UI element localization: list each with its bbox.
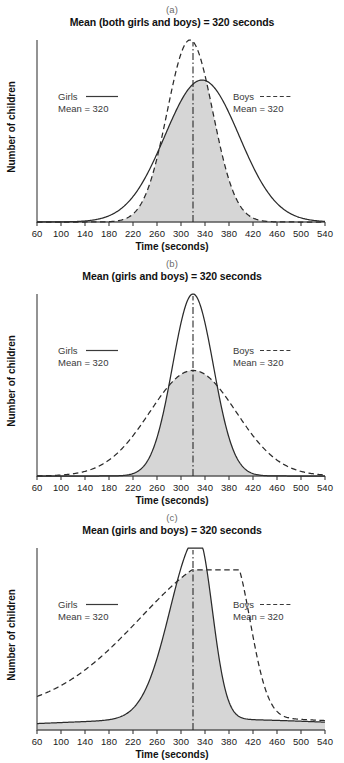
overlap-shaded-region [37, 370, 325, 476]
x-axis-tick-label: 340 [197, 736, 213, 747]
x-axis-tick-label: 60 [32, 736, 43, 747]
legend-boys-label: Boys [233, 345, 254, 356]
legend-girls-label: Girls [58, 345, 78, 356]
panel-b-plot: 60100140180220260300340380420460500540Gi… [0, 254, 344, 508]
x-axis-tick-label: 100 [53, 736, 69, 747]
x-axis-tick-label: 100 [53, 482, 69, 493]
x-axis-tick-label: 300 [173, 228, 189, 239]
x-axis-tick-label: 180 [101, 736, 117, 747]
panel-c-x-axis-label: Time (seconds) [0, 749, 344, 760]
x-axis-tick-label: 420 [245, 736, 261, 747]
legend-girls-label: Girls [58, 91, 78, 102]
x-axis-tick-label: 60 [32, 228, 43, 239]
legend-boys-mean: Mean = 320 [233, 611, 283, 622]
x-axis-tick-label: 140 [77, 736, 93, 747]
x-axis-tick-label: 180 [101, 482, 117, 493]
x-axis-tick-label: 460 [269, 482, 285, 493]
legend-boys-mean: Mean = 320 [233, 357, 283, 368]
x-axis-tick-label: 460 [269, 736, 285, 747]
x-axis-tick-label: 220 [125, 228, 141, 239]
figure-sheet: (a) Mean (both girls and boys) = 320 sec… [0, 0, 344, 763]
panel-a-x-axis-label: Time (seconds) [0, 241, 344, 252]
legend-girls-label: Girls [58, 599, 78, 610]
x-axis-tick-label: 140 [77, 482, 93, 493]
x-axis-tick-label: 460 [269, 228, 285, 239]
x-axis-tick-label: 60 [32, 482, 43, 493]
x-axis-tick-label: 260 [149, 228, 165, 239]
panel-c-plot: 60100140180220260300340380420460500540Gi… [0, 508, 344, 762]
x-axis-tick-label: 340 [197, 228, 213, 239]
panel-b-x-axis-label: Time (seconds) [0, 495, 344, 506]
overlap-shaded-region [37, 570, 325, 730]
x-axis-tick-label: 220 [125, 736, 141, 747]
panel-a-plot: 60100140180220260300340380420460500540Gi… [0, 0, 344, 254]
legend-boys-label: Boys [233, 91, 254, 102]
x-axis-tick-label: 380 [221, 736, 237, 747]
x-axis-tick-label: 540 [317, 228, 333, 239]
x-axis-tick-label: 380 [221, 228, 237, 239]
panel-c: (c) Mean (girls and boys) = 320 seconds … [0, 508, 344, 762]
x-axis-tick-label: 420 [245, 228, 261, 239]
x-axis-tick-label: 420 [245, 482, 261, 493]
legend-girls-mean: Mean = 320 [58, 357, 108, 368]
x-axis-tick-label: 300 [173, 482, 189, 493]
x-axis-tick-label: 500 [293, 736, 309, 747]
x-axis-tick-label: 100 [53, 228, 69, 239]
x-axis-tick-label: 500 [293, 482, 309, 493]
x-axis-tick-label: 260 [149, 736, 165, 747]
x-axis-tick-label: 540 [317, 482, 333, 493]
x-axis-tick-label: 140 [77, 228, 93, 239]
x-axis-tick-label: 380 [221, 482, 237, 493]
x-axis-tick-label: 540 [317, 736, 333, 747]
panel-b: (b) Mean (girls and boys) = 320 seconds … [0, 254, 344, 508]
panel-a: (a) Mean (both girls and boys) = 320 sec… [0, 0, 344, 254]
legend-boys-label: Boys [233, 599, 254, 610]
x-axis-tick-label: 500 [293, 228, 309, 239]
x-axis-tick-label: 260 [149, 482, 165, 493]
legend-boys-mean: Mean = 320 [233, 103, 283, 114]
x-axis-tick-label: 340 [197, 482, 213, 493]
x-axis-tick-label: 180 [101, 228, 117, 239]
x-axis-tick-label: 300 [173, 736, 189, 747]
legend-girls-mean: Mean = 320 [58, 611, 108, 622]
x-axis-tick-label: 220 [125, 482, 141, 493]
legend-girls-mean: Mean = 320 [58, 103, 108, 114]
